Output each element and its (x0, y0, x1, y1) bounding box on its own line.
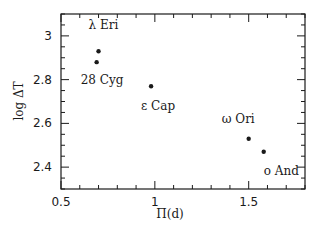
point-label: ω Ori (222, 112, 255, 126)
point-marker (149, 84, 153, 88)
point-marker (262, 150, 266, 154)
data-point: 28 Cyg (81, 60, 124, 87)
data-point: ε Cap (141, 84, 175, 113)
scatter-chart: 0.511.52.42.62.83 λ Eri28 Cygε Capω Orio… (0, 0, 317, 232)
y-axis-title: log ΔT (12, 81, 26, 120)
y-tick-label: 2.6 (33, 116, 52, 130)
data-point: o And (262, 150, 300, 178)
data-points: λ Eri28 Cygε Capω Orio And (81, 18, 299, 178)
point-label: ε Cap (141, 99, 175, 113)
y-tick-label: 3 (44, 29, 52, 43)
point-marker (94, 60, 98, 64)
plot-border (61, 14, 305, 189)
y-tick-label: 2.8 (33, 73, 52, 87)
point-label: λ Eri (89, 18, 119, 32)
y-tick-label: 2.4 (33, 160, 52, 174)
point-marker (246, 136, 250, 140)
x-axis-title: Π(d) (156, 207, 184, 221)
point-label: 28 Cyg (81, 73, 124, 87)
data-point: ω Ori (222, 112, 255, 141)
plot-frame (61, 14, 305, 189)
x-tick-label: 0.5 (51, 195, 70, 209)
x-tick-label: 1.5 (239, 195, 258, 209)
point-label: o And (264, 164, 299, 178)
point-marker (96, 49, 100, 53)
data-point: λ Eri (89, 18, 119, 53)
